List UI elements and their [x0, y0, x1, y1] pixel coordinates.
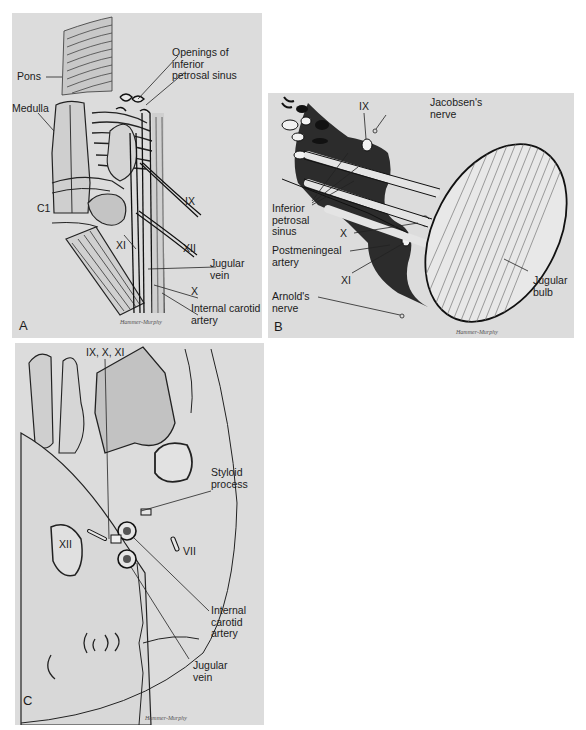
- artist-signature: Hammer-Murphy: [145, 715, 187, 721]
- panel-b-jugular-foramen-schematic: IX Jacobsen's nerve Inferior petrosal si…: [268, 93, 574, 338]
- label-jugular-vein: Jugular vein: [193, 660, 227, 683]
- label-postmeningeal-artery: Postmeningeal artery: [272, 245, 341, 268]
- label-xi: XI: [341, 275, 351, 287]
- label-pons: Pons: [17, 71, 41, 83]
- panel-letter-a: A: [19, 318, 28, 333]
- label-vii: VII: [183, 546, 196, 558]
- label-arnolds-nerve: Arnold's nerve: [272, 291, 310, 314]
- panel-c-skull-base-view: IX, X, XI Styloid process XII VII Intern…: [15, 343, 264, 725]
- label-jacobsens-nerve: Jacobsen's nerve: [430, 97, 482, 120]
- artist-signature: Hammer-Murphy: [456, 329, 498, 335]
- label-ix: IX: [359, 101, 369, 113]
- artist-signature: Hammer-Murphy: [120, 319, 162, 325]
- panel-b-illustration: [268, 93, 574, 338]
- label-x: X: [191, 286, 198, 298]
- panel-letter-b: B: [274, 319, 283, 334]
- label-ix-x-xi: IX, X, XI: [86, 347, 125, 359]
- label-xii: XII: [59, 539, 72, 551]
- label-xi: XI: [116, 240, 126, 252]
- label-jugular-vein: Jugular vein: [210, 258, 244, 281]
- panel-a-posterior-fossa-view: Pons Openings of inferior petrosal sinus…: [12, 13, 262, 338]
- label-ix: IX: [185, 196, 195, 208]
- label-jugular-bulb: Jugular bulb: [533, 275, 567, 298]
- label-styloid-process: Styloid process: [211, 467, 248, 490]
- label-openings-inferior-petrosal-sinus: Openings of inferior petrosal sinus: [172, 47, 237, 82]
- label-internal-carotid-artery: Internal carotid artery: [211, 605, 246, 640]
- label-x: X: [340, 228, 347, 240]
- label-c1: C1: [37, 203, 50, 215]
- label-medulla: Medulla: [12, 103, 49, 115]
- panel-letter-c: C: [23, 693, 32, 708]
- label-xii: XII: [183, 243, 196, 255]
- label-internal-carotid-artery: Internal carotid artery: [191, 303, 260, 326]
- label-inferior-petrosal-sinus: Inferior petrosal sinus: [272, 203, 309, 238]
